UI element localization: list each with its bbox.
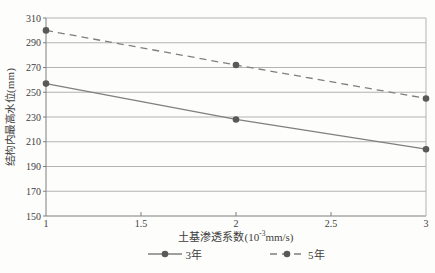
- x-axis-title-unit: mm/s): [265, 231, 293, 243]
- plot-area: 15017019021023025027029031011.522.53: [0, 0, 435, 243]
- y-tick-label-290: 290: [26, 37, 41, 48]
- y-tick-label-150: 150: [26, 211, 41, 222]
- data-point-s0-x2: [233, 116, 240, 123]
- x-axis-title-text: 土基渗透系数(10: [178, 231, 259, 243]
- legend-entry-3-years: 3年: [148, 246, 203, 262]
- y-tick-label-250: 250: [26, 87, 41, 98]
- legend-label-5-years: 5年: [308, 246, 325, 262]
- data-point-s0-x1: [43, 80, 50, 87]
- data-point-s0-x3: [423, 146, 430, 153]
- y-tick-label-230: 230: [26, 112, 41, 123]
- y-tick-label-190: 190: [26, 161, 41, 172]
- y-tick-label-210: 210: [26, 136, 41, 147]
- data-point-s1-x1: [43, 27, 50, 34]
- legend-entry-5-years: 5年: [270, 246, 325, 262]
- x-axis-title: 土基渗透系数(10-3mm/s): [46, 228, 426, 244]
- legend-swatch-dashed-line-icon: [270, 249, 304, 259]
- legend-label-3-years: 3年: [186, 246, 203, 262]
- legend: 3年 5年: [46, 246, 426, 262]
- y-tick-label-270: 270: [26, 62, 41, 73]
- line-chart-figure: 15017019021023025027029031011.522.53 结构内…: [0, 0, 435, 273]
- y-tick-label-170: 170: [26, 186, 41, 197]
- y-axis-title: 结构内最高水位(mm): [2, 68, 17, 167]
- data-point-s1-x3: [423, 95, 430, 102]
- y-tick-label-310: 310: [26, 13, 41, 24]
- data-point-s1-x2: [233, 62, 240, 69]
- legend-swatch-solid-line-icon: [148, 249, 182, 259]
